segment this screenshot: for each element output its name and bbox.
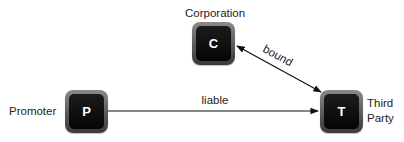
- edge-liable: liable: [108, 94, 318, 111]
- edge-label-liable: liable: [202, 94, 229, 106]
- node-label-third-party-line1: Third: [367, 96, 393, 110]
- edge-bound: bound: [237, 43, 321, 92]
- node-corporation-letter: C: [196, 26, 231, 61]
- node-promoter[interactable]: P: [65, 90, 108, 133]
- node-label-corporation: Corporation: [185, 6, 245, 20]
- node-promoter-letter: P: [69, 94, 104, 129]
- edge-label-bound: bound: [261, 43, 295, 69]
- node-third-party[interactable]: T: [320, 90, 363, 133]
- node-third-party-letter: T: [324, 94, 359, 129]
- node-corporation[interactable]: C: [192, 22, 235, 65]
- node-label-third-party-line2: Party: [367, 111, 394, 125]
- node-label-promoter: Promoter: [9, 104, 56, 118]
